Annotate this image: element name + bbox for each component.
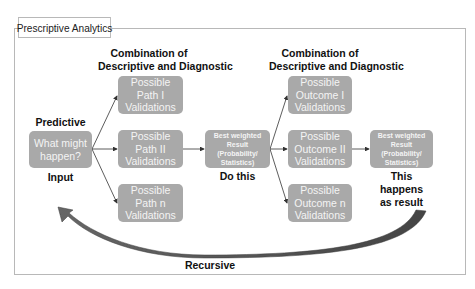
node-text: Result xyxy=(227,140,248,149)
node-text: happen? xyxy=(40,150,81,163)
node-text: Validations xyxy=(125,155,176,168)
outcome-node-1: Possible Outcome I Validations xyxy=(288,76,352,114)
recursive-loop-arrow xyxy=(58,207,426,258)
path-node-n: Possible Path n Validations xyxy=(118,184,183,222)
best-result-node-2: Best weighted Result (Probability/ Stati… xyxy=(370,130,433,168)
node-text: Outcome n xyxy=(294,197,345,210)
predictive-label: Predictive xyxy=(29,116,92,129)
header-line: Combination of xyxy=(269,47,371,60)
node-text: Validations xyxy=(295,101,346,114)
label-line: as result xyxy=(370,196,433,209)
input-label: Input xyxy=(29,171,92,184)
node-text: Path II xyxy=(135,143,165,156)
input-node: What might happen? xyxy=(29,131,92,168)
path-node-1: Possible Path I Validations xyxy=(118,76,183,114)
path-node-2: Possible Path II Validations xyxy=(118,130,183,168)
node-text: Outcome II xyxy=(294,143,345,156)
label-line: This xyxy=(370,170,433,183)
do-this-label: Do this xyxy=(205,170,270,183)
this-happens-label: This happens as result xyxy=(370,170,433,209)
outcome-node-n: Possible Outcome n Validations xyxy=(288,184,352,222)
header-line: Combination of xyxy=(98,47,200,60)
node-text: Validations xyxy=(125,101,176,114)
node-text: Possible xyxy=(131,184,171,197)
node-text: Validations xyxy=(295,209,346,222)
node-text: Result xyxy=(391,140,412,149)
header-line: Descriptive and Diagnostic xyxy=(269,60,371,73)
node-text: Possible xyxy=(131,76,171,89)
node-text: Validations xyxy=(125,209,176,222)
node-text: Statistics) xyxy=(221,158,254,167)
arrow-input-pathn xyxy=(92,149,117,203)
node-text: Possible xyxy=(300,184,340,197)
recursive-label: Recursive xyxy=(180,259,240,272)
outcome-node-2: Possible Outcome II Validations xyxy=(288,130,352,168)
node-text: (Probability/ xyxy=(381,149,421,158)
node-text: What might xyxy=(34,137,87,150)
node-text: Path n xyxy=(135,197,165,210)
node-text: Outcome I xyxy=(296,89,344,102)
label-line: happens xyxy=(370,183,433,196)
node-text: Path I xyxy=(137,89,164,102)
node-text: Possible xyxy=(131,130,171,143)
node-text: Possible xyxy=(300,76,340,89)
node-text: Possible xyxy=(300,130,340,143)
column-header-outcomes: Combination of Descriptive and Diagnosti… xyxy=(269,47,371,73)
best-result-node-1: Best weighted Result (Probability/ Stati… xyxy=(205,130,270,168)
node-text: Validations xyxy=(295,155,346,168)
node-text: Best weighted xyxy=(378,131,425,140)
node-text: Best weighted xyxy=(214,131,261,140)
arrow-result1-outcome1 xyxy=(270,96,287,149)
column-header-paths: Combination of Descriptive and Diagnosti… xyxy=(98,47,200,73)
arrow-result1-outcomen xyxy=(270,149,287,203)
node-text: Statistics) xyxy=(385,158,418,167)
arrow-input-path1 xyxy=(92,96,117,149)
node-text: (Probability/ xyxy=(217,149,257,158)
header-line: Descriptive and Diagnostic xyxy=(98,60,200,73)
